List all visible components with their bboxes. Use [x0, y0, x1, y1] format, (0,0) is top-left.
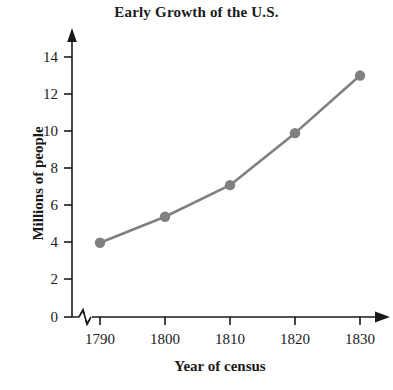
ytick-label-14: 14 [43, 49, 59, 65]
ytick-label-6: 6 [51, 197, 59, 213]
xtick-label-1790: 1790 [85, 331, 115, 347]
ytick-label-2: 2 [51, 271, 59, 287]
x-axis-break-icon [79, 310, 92, 324]
chart-plot-area: 14 12 10 8 6 4 2 0 1790 1800 1810 1820 1… [0, 0, 393, 390]
y-axis-ticks [64, 57, 72, 317]
data-point-1790 [95, 238, 105, 248]
xtick-label-1830: 1830 [345, 331, 375, 347]
ytick-label-0: 0 [51, 309, 59, 325]
y-axis [67, 28, 77, 317]
data-point-1800 [160, 212, 170, 222]
data-point-1820 [290, 128, 300, 138]
data-point-1810 [225, 180, 235, 190]
x-axis-title: Year of census [60, 358, 380, 375]
x-axis-ticks [100, 317, 360, 325]
ytick-label-8: 8 [51, 160, 59, 176]
xtick-label-1800: 1800 [150, 331, 180, 347]
data-point-1830 [355, 70, 365, 80]
x-axis [72, 312, 390, 323]
chart-page: Early Growth of the U.S. [0, 0, 393, 390]
xtick-label-1820: 1820 [280, 331, 310, 347]
xtick-label-1810: 1810 [215, 331, 245, 347]
data-point-markers [95, 70, 365, 248]
y-axis-title: Millions of people [30, 89, 47, 279]
data-series-line [100, 76, 360, 243]
ytick-label-4: 4 [51, 234, 59, 250]
